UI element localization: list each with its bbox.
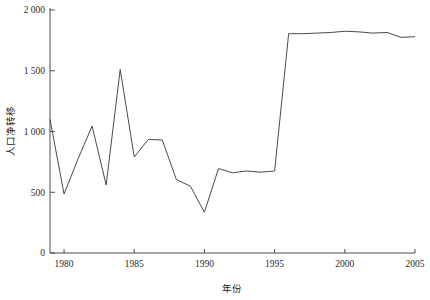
x-tick-label: 1990 <box>195 259 214 269</box>
line-chart: 05001 0001 5002 000 19801985199019952000… <box>0 0 430 300</box>
y-tick-label: 500 <box>31 188 46 198</box>
x-tick-label: 1995 <box>265 259 284 269</box>
x-tick-label: 2000 <box>335 259 354 269</box>
y-tick-label: 1 500 <box>24 66 46 76</box>
chart-svg: 05001 0001 5002 000 19801985199019952000… <box>0 0 430 300</box>
y-tick-label: 0 <box>40 248 45 258</box>
x-axis-title: 年份 <box>222 283 242 294</box>
x-tick-label: 1985 <box>125 259 144 269</box>
x-axis-ticks: 198019851990199520002005 <box>55 249 425 269</box>
x-tick-label: 2005 <box>406 259 425 269</box>
y-tick-label: 1 000 <box>24 127 46 137</box>
y-axis-title: 人口净转移 <box>5 106 16 156</box>
y-tick-label: 2 000 <box>24 5 46 15</box>
data-series-line <box>50 31 415 212</box>
x-tick-label: 1980 <box>55 259 74 269</box>
